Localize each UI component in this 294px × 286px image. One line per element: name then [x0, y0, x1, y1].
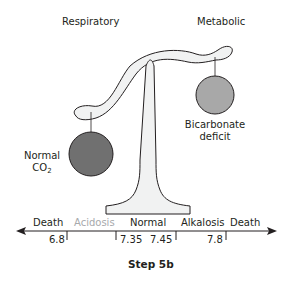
- bicarbonate-line1: Bicarbonate: [184, 119, 246, 131]
- acid-base-scale-diagram: [0, 0, 294, 286]
- bicarbonate-deficit-label: Bicarbonate deficit: [184, 119, 246, 143]
- zone-death-left: Death: [33, 217, 63, 229]
- tick-label-7-35: 7.35: [120, 234, 142, 246]
- metabolic-label: Metabolic: [197, 16, 245, 28]
- respiratory-label: Respiratory: [62, 16, 119, 28]
- tick-label-7-8: 7.8: [207, 234, 223, 246]
- bicarbonate-line2: deficit: [184, 131, 246, 143]
- zone-alkalosis: Alkalosis: [181, 217, 224, 229]
- tick-label-6-8: 6.8: [49, 234, 65, 246]
- normal-co2-line1: Normal: [22, 150, 62, 162]
- right-weight-circle: [196, 76, 234, 114]
- step-caption: Step 5b: [128, 258, 174, 270]
- normal-co2-line2: CO2: [22, 162, 62, 174]
- zone-death-right: Death: [230, 217, 260, 229]
- normal-co2-label: Normal CO2: [22, 150, 62, 174]
- tick-label-7-45: 7.45: [150, 234, 172, 246]
- left-weight-circle: [69, 132, 113, 176]
- zone-acidosis: Acidosis: [74, 217, 115, 229]
- zone-normal: Normal: [130, 217, 166, 229]
